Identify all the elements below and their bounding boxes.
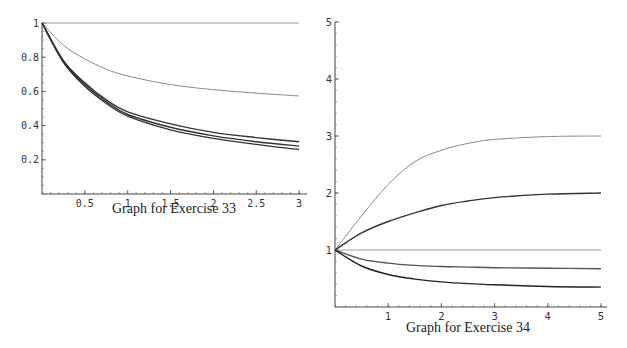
chart-exercise-33: 0.511.522.530.20.40.60.81 <box>21 18 307 210</box>
y-tick-label: 0.8 <box>21 52 39 63</box>
series-to-2 <box>335 193 601 250</box>
caption-exercise-33: Graph for Exercise 33 <box>112 201 236 216</box>
y-tick-label: 1 <box>33 18 39 29</box>
y-tick-label: 5 <box>326 17 332 28</box>
series-upper <box>42 23 299 96</box>
figure-canvas: 0.511.522.530.20.40.60.81 1234512345 Gra… <box>0 0 627 348</box>
y-tick-label: 0.6 <box>21 86 39 97</box>
y-tick-label: 0.4 <box>21 120 39 131</box>
x-tick-label: 5 <box>598 311 604 322</box>
series-to-0.67 <box>335 250 601 269</box>
y-tick-label: 3 <box>326 131 332 142</box>
x-tick-label: 1 <box>385 311 391 322</box>
y-tick-label: 4 <box>326 74 332 85</box>
series-to-3 <box>335 136 601 250</box>
y-tick-label: 2 <box>326 188 332 199</box>
x-tick-label: 4 <box>545 311 551 322</box>
series-lower-3 <box>42 23 299 150</box>
caption-exercise-34: Graph for Exercise 34 <box>406 320 530 335</box>
x-tick-label: 0.5 <box>76 198 94 209</box>
chart-exercise-34: 1234512345 <box>326 17 607 323</box>
x-tick-label: 2.5 <box>247 198 265 209</box>
x-tick-label: 3 <box>296 198 302 209</box>
y-tick-label: 1 <box>326 245 332 256</box>
y-tick-label: 0.2 <box>21 154 39 165</box>
